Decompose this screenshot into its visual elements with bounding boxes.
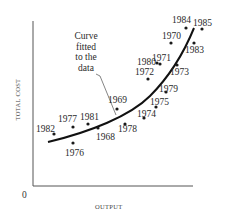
label-1984: 1984	[172, 15, 191, 25]
annotation-line-2: fitted	[70, 42, 102, 53]
label-1978: 1978	[118, 124, 137, 134]
point-1969	[115, 107, 118, 110]
point-1981	[86, 122, 89, 125]
label-1972: 1972	[135, 67, 154, 77]
label-1974: 1974	[137, 109, 156, 119]
label-1976: 1976	[65, 148, 84, 158]
label-1977: 1977	[58, 114, 77, 124]
label-1969: 1969	[108, 95, 127, 105]
chart-canvas	[0, 0, 226, 222]
label-1979: 1979	[159, 84, 178, 94]
point-1970	[169, 41, 172, 44]
x-axis-title: OUTPUT	[95, 203, 122, 210]
label-1968: 1968	[96, 132, 115, 142]
annotation-line-4: data	[70, 63, 102, 74]
point-1968	[96, 126, 99, 129]
point-1977	[71, 125, 74, 128]
curve-annotation: Curve fitted to the data	[70, 31, 102, 73]
annotation-line-1: Curve	[70, 31, 102, 42]
label-1983: 1983	[185, 45, 204, 55]
label-1975: 1975	[150, 97, 169, 107]
point-1972	[146, 77, 149, 80]
label-1985: 1985	[193, 18, 212, 28]
point-1976	[71, 141, 74, 144]
label-1973: 1973	[170, 67, 189, 77]
point-1984	[184, 26, 187, 29]
label-1981: 1981	[80, 112, 99, 122]
origin-label: 0	[22, 190, 27, 200]
annotation-line-3: to the	[70, 52, 102, 63]
y-axis-title: TOTAL COST	[14, 75, 21, 125]
label-1982: 1982	[36, 124, 55, 134]
label-1971: 1971	[152, 53, 171, 63]
label-1970: 1970	[162, 31, 181, 41]
